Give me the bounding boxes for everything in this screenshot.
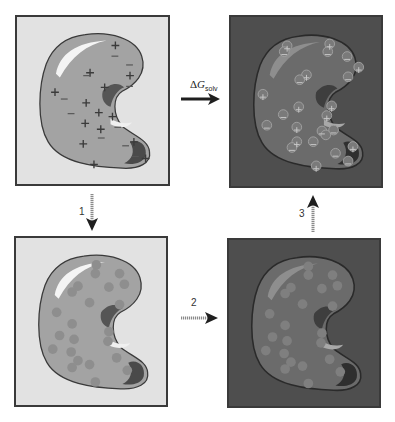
panel-solvent-charged xyxy=(229,15,383,188)
delta-g-solv-label: ΔGsolv xyxy=(190,78,217,92)
protein-charged-solvent-illustration xyxy=(231,17,381,186)
panel-vacuum-uncharged xyxy=(14,236,168,407)
step-3-label: 3 xyxy=(299,208,305,219)
step-1-down-arrow-icon xyxy=(85,193,99,233)
step-2-label: 2 xyxy=(191,297,197,308)
protein-uncharged-vacuum-illustration xyxy=(16,238,166,405)
panel-vacuum-charged xyxy=(15,15,170,186)
protein-uncharged-solvent-illustration xyxy=(229,240,379,406)
step-1-label: 1 xyxy=(79,206,85,217)
panel-solvent-uncharged xyxy=(227,238,381,408)
step-2-right-arrow-icon xyxy=(180,311,220,325)
solvation-arrow-icon xyxy=(180,92,222,106)
protein-charged-vacuum-illustration xyxy=(17,17,168,184)
step-3-up-arrow-icon xyxy=(306,193,320,233)
